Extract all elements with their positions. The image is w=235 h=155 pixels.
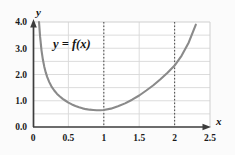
x-tick-label: 1: [101, 133, 106, 143]
x-tick-label: 0.5: [62, 133, 74, 143]
function-graph: 00.511.522.5 0.01.02.03.04.0 x y y = f(x…: [0, 0, 235, 155]
y-axis-name: y: [34, 6, 41, 18]
y-tick-label: 3.0: [15, 44, 27, 54]
x-tick-label: 1.5: [133, 133, 145, 143]
y-axis-tick-labels: 0.01.02.03.04.0: [15, 17, 27, 132]
y-tick-label: 2.0: [15, 70, 27, 80]
x-tick-label: 2: [172, 133, 177, 143]
chart-figure: 00.511.522.5 0.01.02.03.04.0 x y y = f(x…: [0, 0, 235, 155]
x-axis-tick-labels: 00.511.522.5: [31, 133, 217, 143]
x-tick-label: 2.5: [204, 133, 216, 143]
y-tick-label: 4.0: [15, 17, 27, 27]
x-tick-label: 0: [31, 133, 36, 143]
x-axis-name: x: [215, 115, 222, 127]
y-tick-label: 1.0: [15, 96, 27, 106]
curve-label: y = f(x): [51, 37, 91, 51]
y-tick-label: 0.0: [15, 122, 27, 132]
